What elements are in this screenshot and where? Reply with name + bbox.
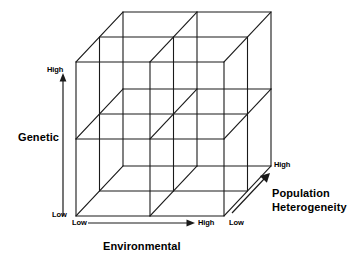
environmental-axis-low-tick-label: Low	[72, 219, 87, 227]
genetic-axis-arrow	[60, 73, 67, 216]
genetic-axis-low-tick-label: Low	[52, 211, 67, 219]
axis-arrows	[60, 73, 270, 226]
environmental-axis-high-tick-label: High	[198, 219, 214, 227]
environmental-axis-title: Environmental	[103, 241, 181, 252]
environmental-axis-arrow	[88, 220, 195, 227]
population-heterogeneity-axis-title: Population Heterogeneity	[272, 187, 347, 215]
population-heterogeneity-axis-high-tick-label: High	[274, 161, 290, 169]
population-heterogeneity-axis-arrow	[232, 173, 270, 213]
figure-canvas: High Low Genetic Low High Environmental …	[0, 0, 363, 265]
population-heterogeneity-axis-title-line1: Population	[272, 187, 347, 201]
genetic-axis-title: Genetic	[18, 132, 59, 143]
genetic-axis-high-tick-label: High	[47, 66, 63, 74]
population-heterogeneity-axis-low-tick-label: Low	[229, 219, 244, 227]
cube-wireframe	[76, 12, 271, 216]
population-heterogeneity-axis-title-line2: Heterogeneity	[272, 201, 347, 215]
